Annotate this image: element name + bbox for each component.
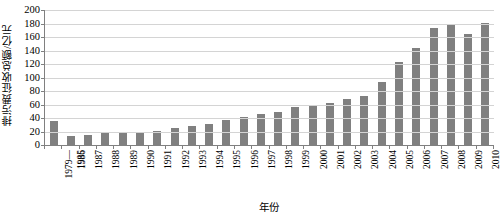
x-axis-tick-label: 2003 <box>368 150 382 204</box>
x-axis-tick <box>96 145 97 149</box>
y-axis-tick <box>41 132 45 133</box>
bar <box>188 126 196 145</box>
x-axis-tick-label: 2007 <box>438 150 452 204</box>
x-axis-tick <box>44 145 45 149</box>
x-axis-tick <box>372 145 373 149</box>
y-axis-tick <box>41 51 45 52</box>
x-axis-tick <box>389 145 390 149</box>
x-axis-tick-label: 1990 <box>144 150 158 204</box>
x-axis-tick-label: 2005 <box>403 150 417 204</box>
x-axis-tick <box>182 145 183 149</box>
bar <box>343 99 351 145</box>
x-axis-tick <box>355 145 356 149</box>
x-axis-tick <box>476 145 477 149</box>
bar <box>291 107 299 145</box>
y-axis-tick-label: 40 <box>30 113 41 124</box>
bar <box>274 112 282 145</box>
x-axis-tick <box>458 145 459 149</box>
gridline <box>45 64 494 65</box>
bar <box>326 103 334 145</box>
x-axis-tick-label: 2009 <box>472 150 486 204</box>
y-axis-title-label: 排污费征收总额/亿元 <box>3 24 14 126</box>
y-axis-tick-label: 80 <box>30 86 41 97</box>
x-axis-tick <box>441 145 442 149</box>
y-axis-tick <box>41 64 45 65</box>
x-axis-tick-label: 2000 <box>317 150 331 204</box>
x-axis-tick-label: 1986 <box>75 150 89 204</box>
x-axis-tick-label: 2001 <box>334 150 348 204</box>
bar <box>481 23 489 145</box>
gridline <box>45 24 494 25</box>
x-axis-tick-label: 1991 <box>161 150 175 204</box>
x-axis-tick-label: 1994 <box>213 150 227 204</box>
gridline <box>45 78 494 79</box>
x-axis-tick <box>251 145 252 149</box>
x-axis-tick <box>165 145 166 149</box>
bar <box>101 133 109 145</box>
bar <box>447 25 455 145</box>
y-axis-tick <box>41 118 45 119</box>
x-axis-tick <box>148 145 149 149</box>
y-axis-tick-labels: 200180160140120100806040200 <box>16 6 42 145</box>
x-axis-tick <box>234 145 235 149</box>
x-axis-tick-label: 1987 <box>92 150 106 204</box>
gridline <box>45 51 494 52</box>
x-axis-tick <box>286 145 287 149</box>
x-axis-tick-label: 2010 <box>489 150 503 204</box>
bar <box>136 132 144 145</box>
x-axis-tick-labels: 1979—19851986198719881989199019911992199… <box>44 150 494 205</box>
x-axis-title: 年份 <box>44 203 494 214</box>
y-axis-tick <box>41 78 45 79</box>
y-axis-tick <box>41 10 45 11</box>
x-axis-tick-label: 2006 <box>420 150 434 204</box>
y-axis-tick <box>41 24 45 25</box>
x-axis-tick <box>61 145 62 149</box>
y-axis-tick-label: 20 <box>30 126 41 137</box>
x-axis-tick <box>407 145 408 149</box>
bar <box>309 105 317 145</box>
x-axis-tick-label: 1996 <box>248 150 262 204</box>
y-axis-tick-label: 140 <box>24 45 40 56</box>
x-axis-tick <box>303 145 304 149</box>
y-axis-tick-label: 100 <box>24 72 40 83</box>
y-axis-tick-label: 180 <box>24 18 40 29</box>
bar <box>430 28 438 145</box>
bar <box>119 133 127 145</box>
bar <box>84 135 92 145</box>
y-axis-tick <box>41 105 45 106</box>
bar <box>412 48 420 145</box>
x-axis-tick-label: 1999 <box>299 150 313 204</box>
gridline <box>45 132 494 133</box>
x-axis-tick <box>130 145 131 149</box>
bar <box>222 120 230 145</box>
y-axis-tick <box>41 91 45 92</box>
bar <box>153 131 161 145</box>
x-axis-tick-label: 1992 <box>179 150 193 204</box>
x-axis-tick <box>338 145 339 149</box>
x-axis-tick-label: 1998 <box>282 150 296 204</box>
y-axis-tick <box>41 37 45 38</box>
x-axis-tick <box>269 145 270 149</box>
y-axis-title: 排污费征收总额/亿元 <box>0 0 16 150</box>
x-axis-tick-label: 1995 <box>230 150 244 204</box>
gridline <box>45 118 494 119</box>
x-axis-tick-label: 2004 <box>386 150 400 204</box>
y-axis-tick-label: 60 <box>30 99 41 110</box>
x-axis-tick-label: 1988 <box>109 150 123 204</box>
y-axis-tick-label: 160 <box>24 32 40 43</box>
bar <box>67 136 75 145</box>
y-axis-tick-label: 0 <box>35 140 40 151</box>
gridline <box>45 91 494 92</box>
x-axis-tick <box>79 145 80 149</box>
x-axis-tick <box>424 145 425 149</box>
x-axis-tick-label: 1993 <box>196 150 210 204</box>
x-axis-tick <box>217 145 218 149</box>
x-axis-tick-label: 1989 <box>127 150 141 204</box>
x-axis-tick-label: 1997 <box>265 150 279 204</box>
gridline <box>45 10 494 11</box>
bar <box>205 124 213 145</box>
x-axis-tick <box>113 145 114 149</box>
bar <box>50 121 58 145</box>
y-axis-tick-label: 200 <box>24 5 40 16</box>
plot-area <box>44 10 494 146</box>
